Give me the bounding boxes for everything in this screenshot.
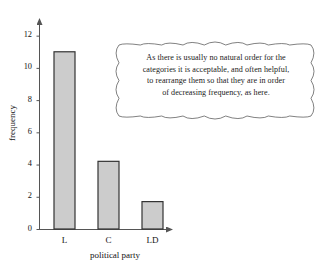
bar-c: [98, 161, 119, 229]
x-axis-category-label: C: [89, 235, 129, 245]
x-axis-category-label: L: [45, 235, 85, 245]
y-axis-tick-label: 10: [16, 62, 32, 71]
y-axis-tick-label: 0: [16, 224, 32, 233]
annotation-text: As there is usually no natural order for…: [126, 52, 306, 98]
annotation-line-3: to rearrange them so that they are in or…: [126, 75, 306, 87]
y-axis-tick-label: 2: [16, 191, 32, 200]
y-axis-tick-label: 4: [16, 159, 32, 168]
bar-chart-graphic: [0, 0, 333, 272]
x-axis-title: political party: [60, 250, 170, 260]
bar-l: [54, 52, 75, 229]
figure-canvas: As there is usually no natural order for…: [0, 0, 333, 272]
y-axis-tick-label: 8: [16, 95, 32, 104]
y-axis-title: frequency: [7, 88, 17, 158]
y-axis-tick-label: 12: [16, 30, 32, 39]
y-axis-tick-label: 6: [16, 127, 32, 136]
annotation-line-1: As there is usually no natural order for…: [126, 52, 306, 64]
bar-ld: [142, 202, 163, 229]
annotation-line-2: categories it is acceptable, and often h…: [126, 64, 306, 76]
x-axis-category-label: LD: [133, 235, 173, 245]
annotation-line-4: of decreasing frequency, as here.: [126, 87, 306, 99]
